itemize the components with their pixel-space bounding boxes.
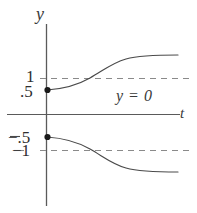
equilibrium-annotation-label: y = 0 (116, 88, 152, 104)
initial-point-dot-negative (44, 134, 50, 140)
y-axis-label: y (36, 5, 44, 23)
upper-solution-curve (47, 55, 178, 90)
tick-label-negative-one: −1 (12, 142, 30, 159)
figure-container: y t y = 0 1 .5 −.5 −1 (0, 0, 197, 213)
tick-label-half: .5 (20, 83, 33, 100)
lower-solution-curve (47, 137, 178, 172)
plot-canvas (0, 0, 197, 213)
initial-point-dot-positive (44, 87, 50, 93)
t-axis-label: t (180, 106, 184, 121)
